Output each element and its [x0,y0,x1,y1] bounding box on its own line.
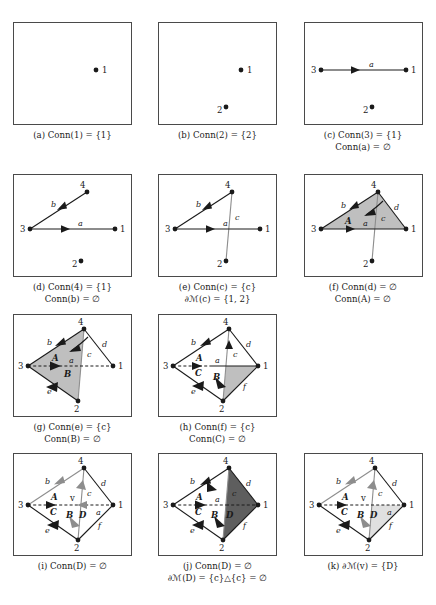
edge-e-label: e [191,387,196,396]
vertex-3-dot [171,503,176,508]
panel-b-diagram: 1 2 [158,22,277,125]
vertex-2-label: 2 [363,259,368,269]
face-A-top-arrowhead [207,482,217,492]
panel-b-svg: 1 2 [159,23,276,124]
edge-a-arrowhead [206,225,215,233]
edge-d-label: d [392,479,397,488]
edge-a-label: a [363,219,368,228]
panel-a-caption-line1: (a) Conn(1) = {1} [3,130,143,142]
vertex-3-label: 3 [165,224,170,234]
vertex-3-label: 3 [309,500,314,510]
panel-g-caption: (g) Conn(e) = {c} Conn(B) = ∅ [3,422,143,445]
vertex-3-dot [173,227,178,232]
face-C-label: C [195,368,202,378]
edge-b-label: b [341,201,346,210]
vertex-3-dot [316,503,321,508]
vertex-1-dot [111,364,116,369]
edge-e-label: e [45,526,50,535]
panel-i-svg: c a b d e f v A B C D [14,454,131,555]
panel-g-diagram: c a b d e A B 3 1 4 [13,314,132,417]
panel-j: c a b d e f A B C D [145,453,290,605]
panel-h-caption-line2: Conn(C) = ∅ [148,434,288,446]
panel-d-diagram: a b 3 1 4 2 [13,174,132,277]
panel-c: a 3 1 2 (c) Conn(3) = {1} Conn(a) = ∅ [290,22,436,174]
vertex-4-label: 4 [225,180,230,190]
vertex-1-label: 1 [263,500,268,510]
vertex-2-dot [224,105,229,110]
panel-e-svg: c a b 3 1 4 2 [159,175,276,276]
vertex-1-dot [403,227,408,232]
edge-b-arrowhead [202,202,212,211]
edge-a-label: a [387,508,392,517]
edge-a-label: a [96,508,101,517]
edge-a-label: a [78,219,83,228]
face-A-label: A [195,492,203,502]
vertex-2-label: 2 [217,105,222,115]
vertex-2-label: 2 [365,543,370,553]
vertex-3-label: 3 [163,361,168,371]
panel-h: c a b d e f A B C 3 [145,314,290,453]
panel-f-caption-line1: (f) Conn(d) = ∅ [293,282,433,294]
vertex-1-label: 1 [247,65,252,75]
vertex-1-dot [256,364,261,369]
panel-j-caption-line2: ∂ℳ(D) = {c}△{c} = ∅ [148,573,288,585]
edge-b-label: b [196,200,201,209]
panel-f: c a b d A 3 1 4 2 [290,174,436,314]
edge-d-line [229,329,258,366]
vertex-2-label: 2 [74,543,79,553]
edge-d-label: d [102,340,107,349]
face-A-label: A [195,353,203,363]
vertex-1-dot [113,227,118,232]
edge-c-label: c [381,214,386,223]
edge-d-line [84,329,113,366]
vertex-3-label: 3 [20,224,25,234]
panel-f-diagram: c a b d A 3 1 4 2 [304,174,423,277]
edge-c-label: c [235,213,240,222]
edge-c-label: c [378,489,383,498]
panel-e-caption: (e) Conn(c) = {c} ∂ℳ(c) = {1, 2} [148,282,288,305]
vertex-1-label: 1 [102,65,107,75]
vertex-v-label: v [360,493,366,503]
vertex-2-label: 2 [219,404,224,414]
face-B-label: B [212,372,220,382]
vertex-3-dot [28,227,33,232]
vertex-3-dot [318,227,323,232]
edge-b-arrowhead [200,477,211,486]
edge-e-label: e [190,526,195,535]
vertex-2-dot [221,399,226,404]
panel-a-caption: (a) Conn(1) = {1} [3,130,143,142]
panel-a-diagram: 1 [13,22,132,125]
vertex-4-label: 4 [80,180,85,190]
edge-c-arrowhead [76,480,86,490]
vertex-4-dot [227,327,232,332]
vertex-4-label: 4 [371,180,376,190]
vertex-2-dot [224,259,229,264]
vertex-4-label: 4 [78,456,83,466]
vertex-4-label: 4 [223,317,228,327]
vertex-1-label: 1 [411,224,416,234]
panel-i-caption-line1: (i) Conn(D) = ∅ [3,561,143,573]
vertex-4-dot [227,466,232,471]
vertex-1-dot [111,503,116,508]
edge-f-label: f [242,382,248,391]
edge-a-label: a [215,495,220,504]
vertex-1-dot [258,227,263,232]
vertex-3-label: 3 [163,500,168,510]
panel-d-caption-line1: (d) Conn(4) = {1} [3,282,143,294]
edge-d-label: d [101,479,106,488]
panel-d-caption: (d) Conn(4) = {1} Conn(b) = ∅ [3,282,143,305]
face-B-label: B [210,510,218,520]
face-B-label: B [356,510,364,520]
face-C-label: C [341,507,348,517]
panel-h-caption: (h) Conn(f) = {c} Conn(C) = ∅ [148,422,288,445]
edge-a-label: a [369,60,374,69]
face-A-label: A [344,216,352,226]
vertex-2-dot [369,105,374,110]
edge-e-label: e [336,526,341,535]
edge-a-label: a [223,219,228,228]
vertex-1-label: 1 [263,361,268,371]
vertex-4-dot [375,190,380,195]
edge-c-arrowhead [367,480,377,490]
panel-c-diagram: a 3 1 2 [304,22,423,125]
panel-k: c a b d e f v A B C D [290,453,436,605]
